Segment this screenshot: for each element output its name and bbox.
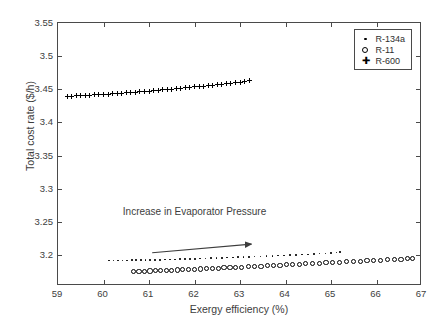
x-axis-title: Exergy efficiency (%) <box>57 303 421 315</box>
y-tick-label-3: 3.35 <box>35 149 54 160</box>
x-tick-label-3: 62 <box>188 288 199 299</box>
x-tick-label-0: 59 <box>52 288 63 299</box>
x-tick-label-1: 60 <box>97 288 108 299</box>
legend: R-134a R-11 ✚ R-600 <box>354 29 412 70</box>
x-tick-label-6: 65 <box>325 288 336 299</box>
x-tick-label-5: 64 <box>279 288 290 299</box>
y-tick-label-7: 3.55 <box>35 17 54 28</box>
x-tick-label-7: 66 <box>370 288 381 299</box>
legend-item-0: R-134a <box>359 33 405 44</box>
legend-item-2: ✚ R-600 <box>359 55 405 66</box>
legend-label-2: R-600 <box>375 56 400 66</box>
y-tick-label-4: 3.4 <box>40 116 53 127</box>
y-tick-label-0: 3.2 <box>40 249 53 260</box>
plot-area: Increase in Evaporator Pressure R-134a <box>57 22 421 285</box>
legend-label-1: R-11 <box>375 45 394 55</box>
legend-item-1: R-11 <box>359 44 405 55</box>
legend-label-0: R-134a <box>375 34 405 44</box>
star-marker-icon: ✚ <box>359 55 373 66</box>
y-tick-label-5: 3.45 <box>35 83 54 94</box>
x-tick-label-4: 63 <box>234 288 245 299</box>
y-tick-label-1: 3.25 <box>35 215 54 226</box>
x-axis-tick-labels: 596061626364656667 <box>57 288 421 302</box>
y-tick-label-2: 3.3 <box>40 182 53 193</box>
x-tick-label-8: 67 <box>416 288 427 299</box>
x-tick-label-2: 61 <box>143 288 154 299</box>
scatter-chart-figure: Total cost rate ($/h) 3.23.253.33.353.43… <box>0 0 439 334</box>
dot-marker-icon <box>359 33 373 44</box>
y-tick-label-6: 3.5 <box>40 50 53 61</box>
circle-marker-icon <box>359 44 373 55</box>
y-axis-tick-labels: 3.23.253.33.353.43.453.53.55 <box>0 22 53 285</box>
